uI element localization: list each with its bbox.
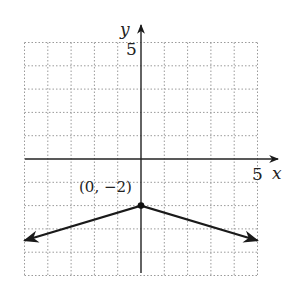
y-axis-label: y	[119, 19, 130, 39]
coordinate-plane: y 5 5 x (0, −2)	[0, 0, 298, 289]
vertex-label: (0, −2)	[79, 178, 132, 196]
y-tick-label: 5	[126, 39, 137, 59]
x-axis-label: x	[272, 163, 282, 183]
vertex-point	[138, 202, 145, 209]
x-tick-label: 5	[252, 164, 263, 184]
